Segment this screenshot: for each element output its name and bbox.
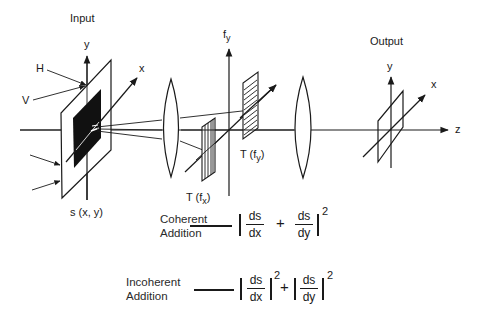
- fraction-ds-dy: dsdy: [300, 273, 318, 304]
- input-x-label: x: [139, 62, 145, 74]
- plus-sign: +: [280, 278, 289, 295]
- abs-bar-2: [270, 278, 272, 300]
- v-label: V: [22, 94, 30, 106]
- lens-1: [164, 79, 179, 177]
- exponent: 2: [322, 205, 328, 217]
- coherent-label-line2: Addition: [160, 226, 207, 240]
- t-fy-label: T (fy): [240, 148, 264, 163]
- incoherent-label-line1: Incoherent: [126, 275, 180, 289]
- lens-2: [295, 77, 311, 178]
- input-plane-group: Input y x H V s (x, y): [20, 12, 145, 218]
- plus-sign: +: [276, 214, 285, 231]
- t-fy-grating: [240, 72, 276, 139]
- input-y-label: y: [84, 38, 90, 50]
- incoherent-dash: [194, 289, 234, 291]
- output-z-label: z: [455, 123, 461, 135]
- input-title: Input: [70, 12, 94, 24]
- output-title: Output: [370, 35, 403, 47]
- fraction-ds-dx: dsdx: [247, 273, 265, 304]
- coherent-label-line1: Coherent: [160, 212, 207, 226]
- fourier-plane-group: fy T (fx) T (fy): [181, 28, 294, 206]
- abs-bar-3: [294, 278, 296, 300]
- abs-bar-4: [322, 278, 324, 300]
- abs-bar-right: [317, 214, 319, 236]
- coherent-dash: [190, 225, 232, 227]
- exponent-2: 2: [327, 269, 333, 281]
- abs-bar-1: [240, 278, 242, 300]
- incoming-ray-1: [30, 155, 60, 165]
- output-x-label: x: [431, 78, 437, 90]
- output-x-axis: [363, 95, 425, 157]
- input-function-label: s (x, y): [70, 206, 103, 218]
- fy-label: fy: [223, 28, 231, 43]
- optical-system-diagram: Input y x H V s (x, y): [0, 0, 481, 324]
- output-y-label: y: [387, 60, 393, 72]
- h-ray: [47, 70, 86, 85]
- output-plane-group: Output y x z: [363, 35, 461, 168]
- fraction-ds-dy: dsdy: [295, 209, 313, 240]
- t-fx-grating: [196, 118, 224, 181]
- incoming-ray-2: [32, 181, 60, 190]
- incoherent-label-line2: Addition: [126, 289, 180, 303]
- t-fx-label: T (fx): [186, 191, 210, 206]
- h-label: H: [36, 62, 44, 74]
- abs-bar-left: [239, 214, 241, 236]
- fraction-ds-dx: dsdx: [246, 209, 264, 240]
- incoherent-label: Incoherent Addition: [126, 275, 180, 303]
